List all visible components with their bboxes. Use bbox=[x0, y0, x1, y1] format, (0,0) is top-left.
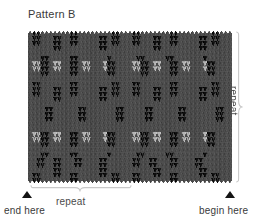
swatch-stitch-canvas bbox=[28, 31, 232, 183]
end-here-marker-icon bbox=[22, 191, 32, 198]
begin-here-marker-icon bbox=[225, 191, 235, 198]
repeat-label-horizontal: repeat bbox=[56, 196, 86, 207]
end-here-label: end here bbox=[4, 205, 45, 216]
knitting-swatch bbox=[28, 31, 232, 183]
repeat-bracket-horizontal bbox=[30, 184, 132, 193]
knitting-chart-figure: Pattern B repeat repeat end here begin h… bbox=[0, 0, 267, 224]
begin-here-label: begin here bbox=[199, 205, 248, 216]
page-title: Pattern B bbox=[28, 8, 76, 20]
repeat-label-vertical: repeat bbox=[228, 86, 239, 116]
